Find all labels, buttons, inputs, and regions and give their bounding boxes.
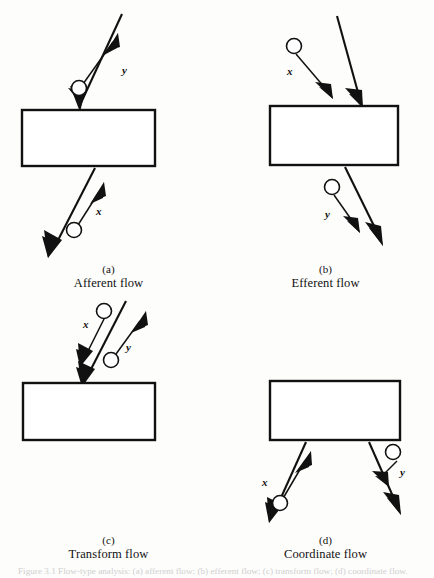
y-arrow-d — [372, 461, 397, 487]
caption-c: (c) Transform flow — [0, 534, 217, 561]
process-box-c[interactable] — [23, 383, 155, 440]
x-arrow-c — [76, 319, 104, 367]
left-branch-d — [265, 442, 306, 523]
node-y-a[interactable] — [72, 81, 87, 96]
through-arrow-b-lower — [345, 167, 383, 246]
process-box-d[interactable] — [270, 381, 400, 440]
node-x-b[interactable] — [287, 39, 302, 54]
label-y-a: y — [120, 64, 127, 76]
y-arrow-c — [116, 311, 148, 354]
caption-c-title: Transform flow — [0, 547, 217, 561]
caption-d-title: Coordinate flow — [217, 547, 434, 561]
node-x-d[interactable] — [273, 496, 288, 511]
through-arrow-b — [337, 16, 363, 108]
node-y-b[interactable] — [325, 180, 340, 195]
node-y-d[interactable] — [386, 445, 401, 460]
node-x-c[interactable] — [97, 304, 112, 319]
through-arrow-a — [68, 14, 122, 112]
label-y-c: y — [124, 341, 131, 353]
label-y-b: y — [323, 208, 330, 220]
label-x-d: x — [261, 476, 268, 488]
x-arrow-a — [78, 182, 106, 225]
y-arrow-a — [83, 33, 120, 84]
label-x-c: x — [82, 318, 89, 330]
caption-b-title: Efferent flow — [217, 276, 434, 290]
caption-d-letter: (d) — [217, 534, 434, 547]
panel-a-diagram: y x — [0, 0, 217, 289]
figure-page: y x (a) Afferent flow — [0, 0, 434, 578]
node-x-a[interactable] — [67, 223, 82, 238]
caption-c-letter: (c) — [0, 534, 217, 547]
label-y-d: y — [398, 466, 405, 478]
x-arrow-d — [282, 451, 312, 500]
label-x-a: x — [95, 205, 102, 217]
panel-d-coordinate-flow: x y (d) Coordinate flow — [217, 289, 434, 578]
y-arrow-b — [334, 195, 360, 233]
process-box-b[interactable] — [270, 106, 398, 165]
caption-b-letter: (b) — [217, 263, 434, 276]
process-box-a[interactable] — [22, 110, 155, 166]
caption-b: (b) Efferent flow — [217, 263, 434, 290]
caption-a-letter: (a) — [0, 263, 217, 276]
caption-d: (d) Coordinate flow — [217, 534, 434, 561]
panel-c-transform-flow: x y (c) Transform flow — [0, 289, 217, 578]
caption-a: (a) Afferent flow — [0, 263, 217, 290]
label-x-b: x — [286, 65, 293, 77]
through-arrow-a-lower — [42, 168, 95, 258]
node-y-c[interactable] — [104, 353, 119, 368]
panel-b-diagram: x y — [217, 0, 434, 289]
x-arrow-b — [296, 54, 333, 99]
panel-b-efferent-flow: x y (b) Efferent flow — [217, 0, 434, 289]
panel-a-afferent-flow: y x (a) Afferent flow — [0, 0, 217, 289]
caption-a-title: Afferent flow — [0, 276, 217, 290]
figure-footer-caption: Figure 3.1 Flow-type analysis: (a) affer… — [18, 566, 418, 577]
